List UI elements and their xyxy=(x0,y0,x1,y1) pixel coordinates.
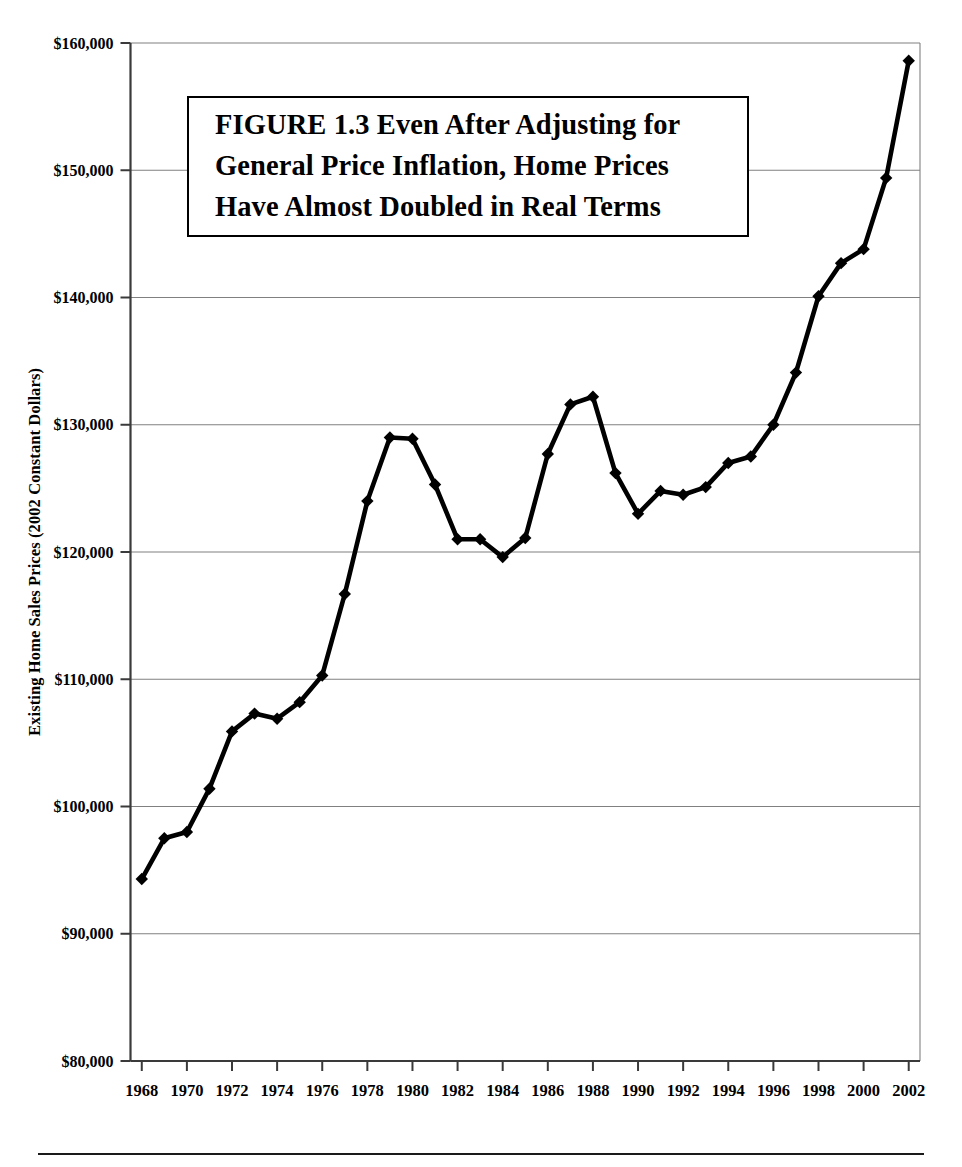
x-tick-label-1970: 1970 xyxy=(170,1081,203,1100)
y-axis-ticks xyxy=(121,43,131,1061)
x-tick-label-1986: 1986 xyxy=(531,1081,564,1100)
x-tick-label-1990: 1990 xyxy=(622,1081,655,1100)
figure-title-box: FIGURE 1.3 Even After Adjusting for Gene… xyxy=(187,96,749,237)
data-point-1977 xyxy=(339,588,351,600)
y-tick-label-140000: $140,000 xyxy=(54,289,114,306)
data-point-2002 xyxy=(903,55,915,67)
y-tick-label-130000: $130,000 xyxy=(54,416,114,433)
y-axis-tick-labels: $80,000$90,000$100,000$110,000$120,000$1… xyxy=(54,35,114,1070)
figure-title-line-2: General Price Inflation, Home Prices xyxy=(215,145,727,186)
x-tick-label-1996: 1996 xyxy=(757,1081,790,1100)
data-point-1982 xyxy=(451,533,463,545)
x-tick-label-1974: 1974 xyxy=(261,1081,294,1100)
x-tick-label-1988: 1988 xyxy=(576,1081,609,1100)
x-tick-label-1998: 1998 xyxy=(802,1081,835,1100)
x-axis-tick-labels: 1968197019721974197619781980198219841986… xyxy=(125,1081,925,1100)
x-axis-ticks xyxy=(142,1061,909,1071)
x-tick-label-1976: 1976 xyxy=(306,1081,339,1100)
x-tick-label-1980: 1980 xyxy=(396,1081,429,1100)
x-tick-label-2000: 2000 xyxy=(847,1081,880,1100)
x-tick-label-1982: 1982 xyxy=(441,1081,474,1100)
figure-title-line-1: FIGURE 1.3 Even After Adjusting for xyxy=(215,104,727,145)
data-point-1988 xyxy=(587,391,599,403)
x-tick-label-1994: 1994 xyxy=(712,1081,745,1100)
y-axis-title: Existing Home Sales Prices (2002 Constan… xyxy=(25,368,44,736)
x-tick-label-2002: 2002 xyxy=(892,1081,925,1100)
y-tick-label-90000: $90,000 xyxy=(62,925,114,942)
x-tick-label-1992: 1992 xyxy=(667,1081,700,1100)
x-tick-label-1968: 1968 xyxy=(125,1081,158,1100)
y-tick-label-150000: $150,000 xyxy=(54,162,114,179)
x-tick-label-1978: 1978 xyxy=(351,1081,384,1100)
figure-container: $80,000$90,000$100,000$110,000$120,000$1… xyxy=(0,0,962,1167)
y-tick-label-110000: $110,000 xyxy=(54,671,113,688)
data-point-1979 xyxy=(384,431,396,443)
data-point-1992 xyxy=(677,489,689,501)
x-tick-label-1984: 1984 xyxy=(486,1081,519,1100)
y-tick-label-100000: $100,000 xyxy=(54,798,114,815)
figure-title-line-3: Have Almost Doubled in Real Terms xyxy=(215,186,727,227)
x-tick-label-1972: 1972 xyxy=(216,1081,249,1100)
y-tick-label-120000: $120,000 xyxy=(54,544,114,561)
data-point-2001 xyxy=(880,172,892,184)
footer-divider xyxy=(38,1153,924,1155)
data-point-1978 xyxy=(361,495,373,507)
y-tick-label-80000: $80,000 xyxy=(62,1053,114,1070)
y-tick-label-160000: $160,000 xyxy=(54,35,114,52)
